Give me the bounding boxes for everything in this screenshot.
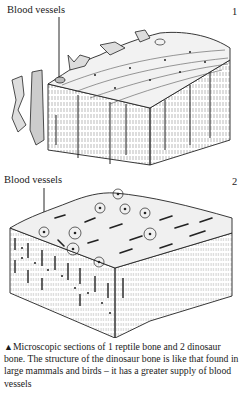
caption-text: Microscopic sections of 1 reptile bone a…	[4, 341, 238, 389]
caption-marker-icon: ▲	[4, 342, 13, 352]
figure2-label: Blood vessels	[4, 174, 62, 185]
figure-caption: ▲Microscopic sections of 1 reptile bone …	[4, 341, 240, 390]
figure2-number: 2	[232, 176, 237, 187]
reptile-bone-illustration	[0, 0, 241, 175]
dinosaur-bone-illustration	[0, 188, 241, 338]
